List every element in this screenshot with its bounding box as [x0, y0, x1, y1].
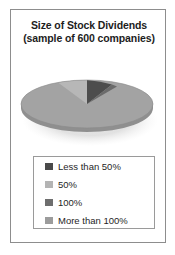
legend-item-100: 100% — [34, 194, 154, 211]
legend-label-50: 50% — [58, 179, 77, 190]
pie-chart-svg — [13, 54, 165, 154]
legend-label-100: 100% — [58, 197, 82, 208]
legend-label-more-than-100: More than 100% — [58, 215, 128, 226]
page-title: Size of Stock Dividends (sample of 600 c… — [11, 19, 167, 45]
title-line-2: (sample of 600 companies) — [11, 32, 167, 45]
chart-legend: Less than 50% 50% 100% More than 100% — [33, 156, 155, 229]
legend-item-less-than-50: Less than 50% — [34, 158, 154, 175]
legend-swatch-100 — [45, 199, 53, 206]
pie-chart — [13, 54, 165, 154]
title-line-1: Size of Stock Dividends — [11, 19, 167, 32]
legend-item-50: 50% — [34, 176, 154, 193]
legend-swatch-50 — [45, 181, 53, 188]
legend-swatch-less-than-50 — [45, 163, 53, 170]
legend-item-more-than-100: More than 100% — [34, 212, 154, 229]
legend-label-less-than-50: Less than 50% — [58, 161, 121, 172]
chart-card: Size of Stock Dividends (sample of 600 c… — [10, 9, 166, 243]
legend-swatch-more-than-100 — [45, 217, 53, 224]
